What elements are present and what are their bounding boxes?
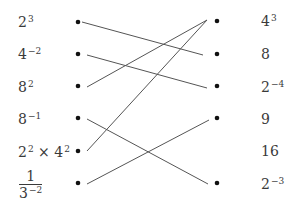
right-item-4: 9 [261,112,270,126]
left-item-5: 22 × 42 [18,145,70,159]
left-item-3: 82 [18,80,34,94]
left-item-2: 4−2 [18,47,41,61]
left-item-1: 23 [18,15,34,29]
left-item-6-fraction: 1 3−2 [19,169,42,200]
right-dot-3[interactable] [215,84,220,89]
left-dot-1[interactable] [76,20,81,25]
fraction-numerator: 1 [19,169,42,183]
right-item-6: 2−3 [261,177,284,191]
line-4pow-2-to-2pow-4 [87,55,207,88]
matching-lines [0,0,287,213]
left-dot-4[interactable] [76,116,81,121]
right-item-2: 8 [261,47,270,61]
line-8pow2-to-4pow3 [87,20,207,87]
left-item-4: 8−1 [18,112,41,126]
line-2pow3-to-8 [82,22,203,55]
right-item-5: 16 [261,144,279,158]
right-item-1: 43 [261,14,277,28]
left-dot-3[interactable] [76,84,81,89]
left-dot-5[interactable] [76,149,81,154]
right-dot-1[interactable] [215,19,220,24]
left-dot-2[interactable] [76,52,81,57]
left-dot-6[interactable] [76,181,81,186]
fraction-denominator: 3−2 [19,186,42,200]
right-dot-2[interactable] [215,52,220,57]
right-dot-4[interactable] [215,116,220,121]
right-item-3: 2−4 [261,80,284,94]
right-dot-6[interactable] [215,181,220,186]
